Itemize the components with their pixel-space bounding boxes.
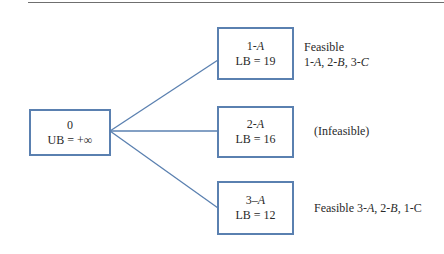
note-3a: Feasible 3-A, 2-B, 1-C [314,201,422,216]
node-2a-bound: LB = 16 [235,132,275,147]
root-label: 0 [67,118,73,133]
node-2a: 2-A LB = 16 [217,106,294,158]
node-1a-bound: LB = 19 [235,54,275,69]
node-1a: 1-A LB = 19 [217,27,294,80]
edge-root-3a [110,131,218,208]
root-bound: UB = +∞ [48,133,93,148]
node-1a-label: 1-A [247,39,264,54]
root-node: 0 UB = +∞ [29,109,111,156]
edge-root-1a [110,60,218,131]
node-3a: 3–A LB = 12 [217,181,294,235]
note-1a-assignment: 1-A, 2-B, 3-C [304,55,369,70]
node-3a-bound: LB = 12 [235,208,275,223]
note-2a: (Infeasible) [314,124,369,139]
node-2a-label: 2-A [247,117,264,132]
node-3a-label: 3–A [246,193,265,208]
note-1a: Feasible 1-A, 2-B, 3-C [304,40,369,70]
